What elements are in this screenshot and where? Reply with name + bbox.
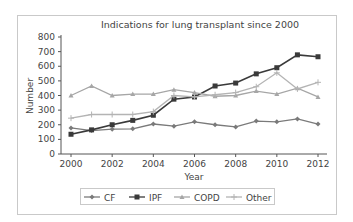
y-tick-label: 300 bbox=[38, 105, 55, 115]
square-marker-icon bbox=[89, 127, 94, 132]
cross-marker-icon bbox=[315, 79, 321, 85]
y-axis-label: Number bbox=[25, 78, 35, 114]
x-tick-label: 2002 bbox=[101, 159, 124, 169]
diamond-marker-icon bbox=[130, 126, 135, 131]
square-marker-icon bbox=[233, 81, 238, 86]
square-marker-icon bbox=[213, 83, 218, 88]
diamond-marker-icon bbox=[171, 124, 176, 129]
diamond-marker-icon bbox=[110, 127, 115, 132]
y-tick-label: 600 bbox=[38, 61, 55, 71]
y-tick-label: 700 bbox=[38, 47, 55, 57]
diamond-marker-icon bbox=[69, 125, 74, 130]
x-tick-label: 2008 bbox=[224, 159, 247, 169]
square-marker-icon bbox=[110, 122, 115, 127]
cross-marker-icon bbox=[130, 112, 136, 118]
triangle-marker-icon bbox=[89, 83, 94, 88]
square-marker-icon bbox=[69, 132, 74, 137]
y-tick-label: 500 bbox=[38, 76, 55, 86]
y-tick-label: 100 bbox=[38, 134, 55, 144]
square-marker-icon bbox=[274, 65, 279, 70]
diamond-marker-icon bbox=[254, 119, 259, 124]
diamond-marker-icon bbox=[274, 119, 279, 124]
cross-marker-icon bbox=[89, 112, 95, 118]
chart-title: Indications for lung transplant since 20… bbox=[101, 19, 299, 30]
x-axis-label: Year bbox=[183, 172, 203, 182]
diamond-marker-icon bbox=[295, 116, 300, 121]
diamond-marker-icon bbox=[316, 122, 321, 127]
series-other bbox=[68, 70, 321, 121]
axes: 0100200300400500600700800200020022004200… bbox=[38, 32, 330, 169]
y-tick-label: 400 bbox=[38, 91, 55, 101]
diamond-marker-icon bbox=[192, 119, 197, 124]
y-tick-label: 0 bbox=[49, 149, 55, 159]
x-tick-label: 2012 bbox=[307, 159, 330, 169]
y-tick-label: 800 bbox=[38, 32, 55, 42]
cross-marker-icon bbox=[109, 112, 115, 118]
x-tick-label: 2004 bbox=[142, 159, 165, 169]
cross-marker-icon bbox=[68, 115, 74, 121]
x-tick-label: 2000 bbox=[60, 159, 83, 169]
square-marker-icon bbox=[316, 54, 321, 59]
diamond-marker-icon bbox=[151, 122, 156, 127]
cross-marker-icon bbox=[212, 92, 218, 98]
legend-box bbox=[80, 188, 275, 205]
square-marker-icon bbox=[254, 71, 259, 76]
diamond-marker-icon bbox=[213, 122, 218, 127]
series-cf bbox=[69, 116, 321, 133]
series-group bbox=[68, 52, 321, 136]
x-tick-label: 2010 bbox=[265, 159, 288, 169]
square-marker-icon bbox=[130, 118, 135, 123]
square-marker-icon bbox=[295, 52, 300, 57]
diamond-marker-icon bbox=[233, 124, 238, 129]
x-tick-label: 2006 bbox=[183, 159, 206, 169]
y-tick-label: 200 bbox=[38, 120, 55, 130]
